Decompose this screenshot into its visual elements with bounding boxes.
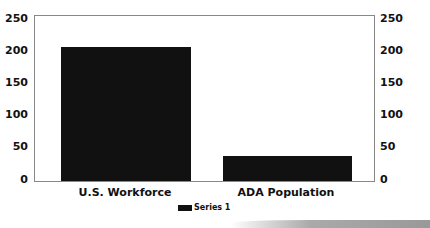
legend: Series 1	[178, 203, 230, 212]
x-label-us-workforce: U.S. Workforce	[45, 186, 205, 199]
y-tick-right-150: 150	[380, 77, 403, 89]
y-tick-right-0: 0	[380, 174, 388, 186]
legend-label: Series 1	[194, 203, 230, 212]
y-tick-right-250: 250	[380, 13, 403, 25]
y-tick-left-50: 50	[0, 141, 28, 153]
page-curl-shadow	[230, 220, 430, 228]
y-tick-left-100: 100	[0, 109, 28, 121]
y-tick-left-150: 150	[0, 77, 28, 89]
y-tick-left-200: 200	[0, 45, 28, 57]
bar-us-workforce	[61, 47, 191, 181]
y-tick-left-0: 0	[0, 174, 28, 186]
y-tick-left-250: 250	[0, 13, 28, 25]
plot-area	[34, 15, 375, 182]
legend-swatch	[178, 205, 192, 211]
y-tick-right-200: 200	[380, 45, 403, 57]
x-label-ada-population: ADA Population	[206, 186, 366, 199]
bar-ada-population	[223, 156, 352, 181]
y-tick-right-100: 100	[380, 109, 403, 121]
y-tick-right-50: 50	[380, 141, 395, 153]
